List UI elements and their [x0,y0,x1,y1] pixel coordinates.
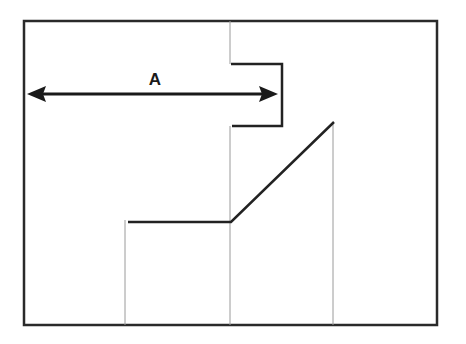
dimension-label: A [149,70,161,89]
guide-lines [125,21,333,325]
ramp-profile [128,122,334,222]
dimension-diagram: A [0,0,466,344]
